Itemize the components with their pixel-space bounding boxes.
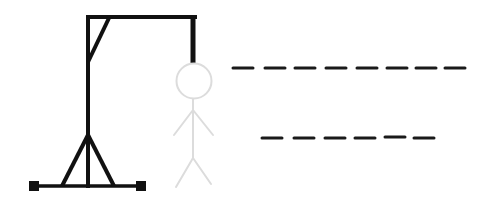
hangman-figure [174,64,213,188]
figure-right-leg [193,158,211,184]
gallows-right-foot [136,181,146,191]
gallows-brace [88,18,109,62]
figure-head [177,64,212,99]
word-row-2 [262,137,434,138]
figure-left-leg [176,158,193,187]
hangman-game: Hangman [0,0,489,202]
gallows-left-leg [62,135,88,186]
figure-right-arm [193,110,213,135]
gallows-right-leg [88,135,114,186]
gallows-left-foot [29,181,39,191]
figure-left-arm [174,110,193,135]
gallows [29,17,195,191]
